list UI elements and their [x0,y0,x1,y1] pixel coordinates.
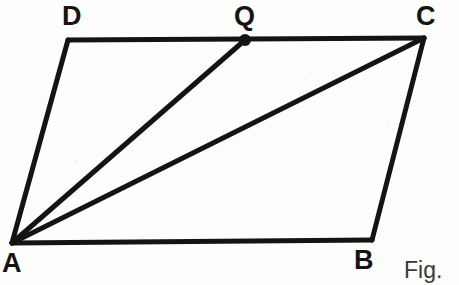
geometry-figure: D Q C A B Fig. [0,0,459,285]
markers-group [239,34,251,46]
figure-caption: Fig. [404,259,442,282]
segment-bc [372,38,424,240]
segments-group [12,38,424,243]
figure-canvas [0,0,459,285]
segment-aq [12,40,245,243]
vertex-label-d: D [62,3,82,30]
segment-ac [12,38,424,243]
vertex-label-a: A [2,250,22,277]
vertex-label-c: C [416,3,436,30]
point-marker-q [239,34,251,46]
segment-da [12,40,68,243]
segment-ab [12,240,372,243]
vertex-label-b: B [354,247,374,274]
vertex-label-q: Q [234,3,255,30]
